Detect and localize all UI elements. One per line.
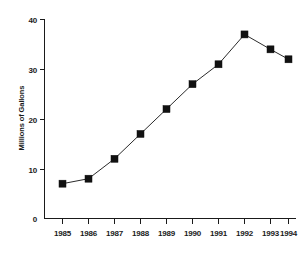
y-tick-label-30: 30 bbox=[29, 66, 38, 75]
x-tick-label-1991: 1991 bbox=[210, 229, 228, 238]
data-point-1990 bbox=[189, 81, 196, 88]
data-point-1994 bbox=[285, 56, 292, 63]
x-tick-label-1993: 1993 bbox=[262, 229, 280, 238]
y-tick-label-40: 40 bbox=[29, 16, 38, 25]
data-point-1988 bbox=[137, 130, 144, 137]
chart-container: Millions of Gallons 40 30 20 10 0 1985 1… bbox=[0, 0, 306, 257]
y-axis-title: Millions of Gallons bbox=[17, 86, 26, 151]
y-tick-label-10: 10 bbox=[29, 166, 38, 175]
x-tick-label-1988: 1988 bbox=[132, 229, 150, 238]
data-point-1992 bbox=[241, 31, 248, 38]
data-point-1985 bbox=[59, 180, 66, 187]
x-tick-label-1989: 1989 bbox=[158, 229, 176, 238]
y-tick-label-20: 20 bbox=[29, 116, 38, 125]
x-tick-label-1992: 1992 bbox=[236, 229, 254, 238]
x-tick-label-1987: 1987 bbox=[106, 229, 124, 238]
data-point-1989 bbox=[163, 106, 170, 113]
data-point-1986 bbox=[85, 175, 92, 182]
data-point-1991 bbox=[215, 61, 222, 68]
data-point-1987 bbox=[111, 155, 118, 162]
data-point-1993 bbox=[267, 46, 274, 53]
x-tick-label-1990: 1990 bbox=[184, 229, 202, 238]
line-chart: Millions of Gallons 40 30 20 10 0 1985 1… bbox=[0, 0, 306, 257]
x-tick-label-1986: 1986 bbox=[80, 229, 98, 238]
x-tick-label-1985: 1985 bbox=[54, 229, 72, 238]
x-tick-label-1994: 1994 bbox=[280, 229, 298, 238]
